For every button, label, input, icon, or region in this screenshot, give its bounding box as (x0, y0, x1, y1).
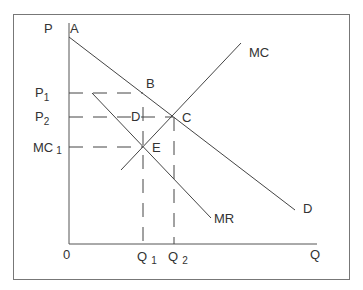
point-e-label: E (152, 140, 161, 155)
marginal-cost-curve (121, 43, 241, 170)
origin-label: 0 (63, 247, 70, 262)
point-b-label: B (146, 76, 155, 91)
x-axis-label: Q (310, 247, 320, 262)
marginal-revenue-curve (92, 93, 211, 218)
diagram-frame (14, 15, 350, 280)
q1-label: Q1 (137, 249, 157, 266)
point-a-label: A (70, 21, 79, 36)
p2-label: P2 (35, 109, 50, 127)
y-axis-label: P (44, 21, 53, 36)
economics-diagram: P A 0 Q P1 P2 MC1 Q1 Q2 B C D E MC MR D (0, 0, 363, 290)
q2-label: Q2 (168, 249, 188, 266)
p1-label: P1 (35, 85, 50, 103)
point-d-label: D (131, 109, 140, 124)
mc1-label: MC1 (33, 140, 62, 156)
mr-curve-label: MR (214, 211, 234, 226)
mc-curve-label: MC (249, 45, 269, 60)
d-curve-label: D (303, 201, 312, 216)
point-c-label: C (182, 110, 191, 125)
